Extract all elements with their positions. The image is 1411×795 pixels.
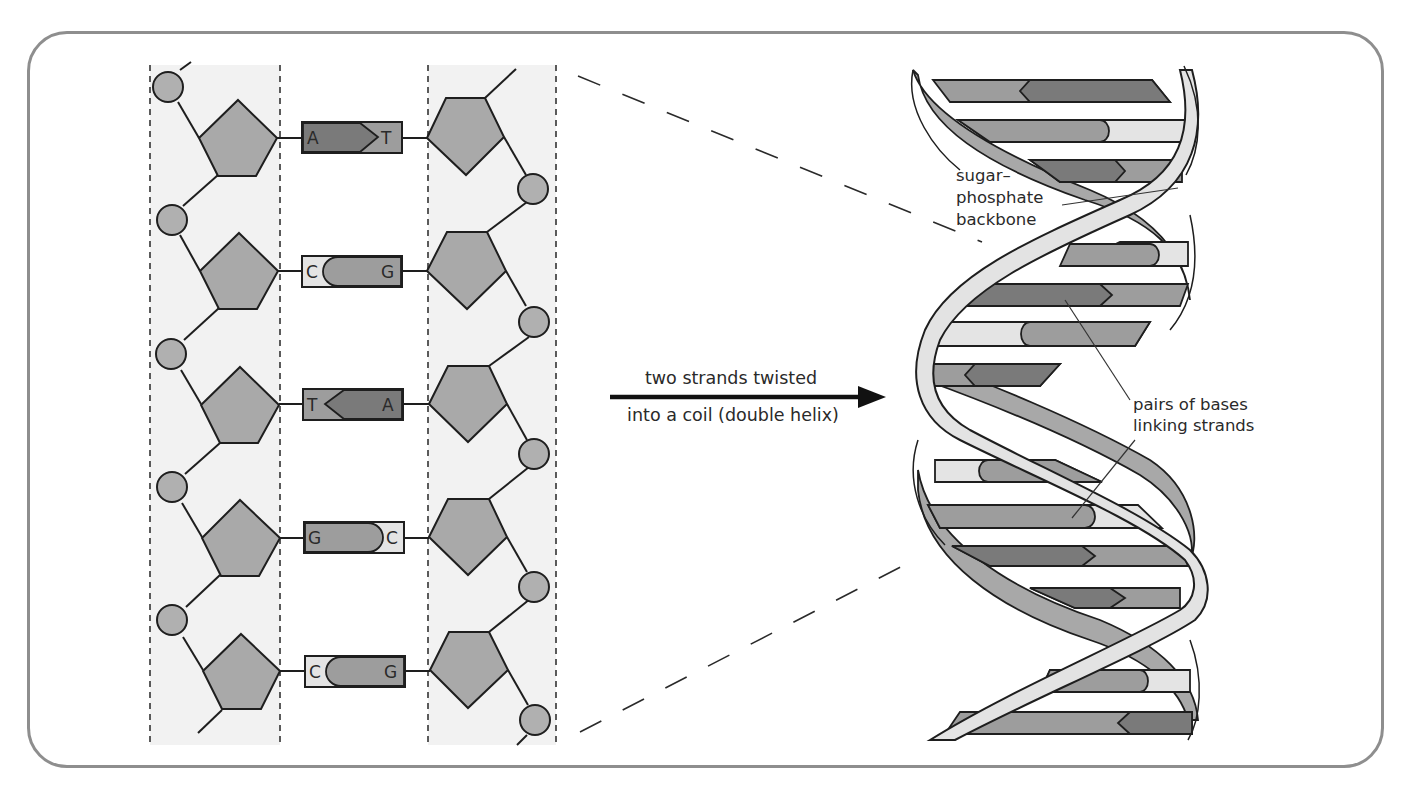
base-label-left: G bbox=[308, 528, 321, 548]
base-label-right: C bbox=[386, 528, 398, 548]
base-label-left: C bbox=[309, 662, 321, 682]
base-label-right: A bbox=[382, 395, 394, 415]
label-backbone-line1: sugar– bbox=[956, 166, 1011, 185]
phosphate-circle bbox=[153, 72, 183, 102]
phosphate-circle bbox=[157, 605, 187, 635]
phosphate-circle bbox=[518, 174, 548, 204]
base-label-left: C bbox=[306, 262, 318, 282]
ladder-diagram: A T C G T A G C bbox=[150, 62, 556, 745]
projection-line-top bbox=[578, 76, 982, 242]
base-pair-4: G C bbox=[304, 522, 404, 553]
base-pair-3: T A bbox=[303, 389, 403, 420]
base-label-right: G bbox=[384, 662, 397, 682]
base-label-right: T bbox=[380, 128, 392, 148]
base-label-left: T bbox=[306, 395, 318, 415]
phosphate-circle bbox=[519, 572, 549, 602]
arrow-caption-line2: into a coil (double helix) bbox=[627, 405, 839, 425]
phosphate-circle bbox=[519, 307, 549, 337]
phosphate-circle bbox=[157, 472, 187, 502]
base-label-right: G bbox=[381, 262, 394, 282]
phosphate-circle bbox=[156, 339, 186, 369]
phosphate-circle bbox=[157, 205, 187, 235]
label-backbone-line3: backbone bbox=[956, 210, 1036, 229]
label-backbone-line2: phosphate bbox=[956, 188, 1043, 207]
base-label-left: A bbox=[307, 128, 319, 148]
phosphate-circle bbox=[520, 705, 550, 735]
arrow-caption-line1: two strands twisted bbox=[645, 368, 817, 388]
arrow-head-icon bbox=[858, 386, 886, 408]
phosphate-circle bbox=[519, 439, 549, 469]
label-pairs-line1: pairs of bases bbox=[1133, 395, 1248, 414]
base-pair-5: C G bbox=[305, 656, 405, 687]
base-pair-2: C G bbox=[302, 256, 402, 287]
base-pair-1: A T bbox=[302, 122, 402, 153]
transform-arrow: two strands twisted into a coil (double … bbox=[610, 368, 886, 425]
zoom-projection-lines bbox=[578, 76, 982, 732]
dna-diagram: A T C G T A G C bbox=[0, 0, 1411, 795]
leader-line-upper bbox=[1065, 300, 1130, 400]
projection-line-bottom bbox=[580, 557, 920, 732]
label-pairs-line2: linking strands bbox=[1133, 416, 1254, 435]
double-helix: sugar– phosphate backbone pairs of bases… bbox=[912, 66, 1255, 740]
